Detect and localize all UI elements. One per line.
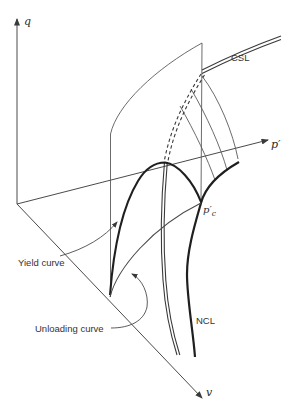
preconsolidation-pressure-subscript: c [212, 209, 217, 218]
v-axis [17, 204, 202, 398]
diagram-canvas: q p′ v CSL NCL p′c Yield curve Unloading… [0, 0, 288, 418]
surface-section-curve-1 [202, 76, 238, 159]
critical-state-diagram: q p′ v CSL NCL p′c Yield curve Unloading… [0, 0, 288, 418]
csl-lower-line-a [161, 162, 177, 355]
unloading-curve-label: Unloading curve [35, 323, 104, 334]
csl-lower-line-b [164, 162, 180, 355]
p-prime-axis [17, 140, 268, 204]
q-axis-label: q [24, 15, 31, 28]
yield-curve-label: Yield curve [18, 257, 65, 268]
yield-curve-leader [60, 222, 117, 256]
elastic-wall-right-edge [201, 43, 202, 202]
surface-section-curve-3 [180, 106, 215, 180]
preconsolidation-pressure-label: p′c [203, 204, 217, 218]
ncl-label: NCL [196, 315, 215, 326]
unloading-curve-leader [111, 274, 147, 328]
v-axis-label: v [206, 386, 213, 399]
csl-label: CSL [231, 52, 249, 63]
p-prime-axis-label: p′ [271, 138, 281, 151]
ncl-curve [187, 162, 239, 357]
csl-dashed-line-a [165, 74, 202, 160]
